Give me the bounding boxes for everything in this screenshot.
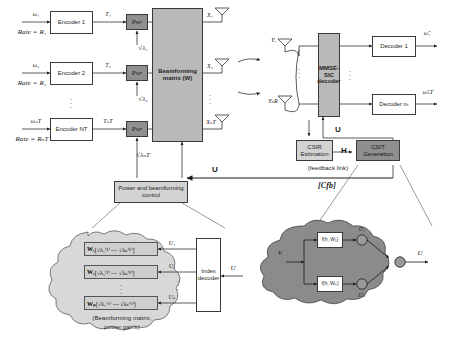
index-decoder-line1: Index: [201, 268, 216, 275]
channel-matrix-label: H: [341, 147, 347, 156]
stream-symbol-1: T₁: [105, 11, 111, 18]
beamforming-label-line2: matrix (W): [163, 75, 192, 82]
encoder-1-block[interactable]: Encoder 1: [50, 11, 93, 34]
codebook-gains-2: [√λ₁⁽²⁾ ⋯ √λₙ⁽²⁾]: [95, 269, 135, 276]
index-decoder-input-label: U: [230, 265, 235, 273]
csit-label-line1: CSIT: [371, 144, 385, 151]
stream-symbol-nt: TₙT: [103, 118, 112, 125]
rx-antenna-ellipsis: ...: [298, 66, 300, 78]
selection-function-1: f(h, W₁): [317, 232, 343, 248]
index-decoder-block[interactable]: Index decoder: [196, 238, 221, 312]
selection-function-p: f(h, Wₚ): [317, 276, 343, 292]
power-block-2[interactable]: Pwr: [126, 65, 148, 81]
codebook-caption-line1: (Beamforming matrix,: [92, 315, 151, 322]
encoder-2-block[interactable]: Encoder 2: [50, 62, 93, 85]
antenna-output-nt: XₙT: [206, 119, 216, 126]
power-beamforming-control-block[interactable]: Power and beamforming control: [114, 181, 188, 203]
decoder-1-block[interactable]: Decoder 1: [372, 36, 416, 57]
codebook-matrix-2: W₂: [87, 269, 95, 275]
codebook-entry-1: W₁ [√λ₁⁽¹⁾ ⋯ √λₙ⁽¹⁾]: [84, 242, 158, 256]
feedback-capacity-label: [Cfb]: [318, 182, 336, 191]
decoder-output-1: ω̂₁: [424, 30, 431, 37]
rx-antenna-label-nr: YₙR: [268, 98, 278, 105]
csit-label-line2: Generation: [363, 151, 393, 158]
csir-label-line2: Estimation: [300, 151, 328, 158]
decoder-feedback-u-label: U: [335, 126, 341, 135]
input-symbol-nt: ωₙT: [31, 118, 41, 125]
beamforming-label-line1: Beamforming: [158, 68, 197, 75]
antenna-output-2: X₂: [207, 63, 213, 70]
input-symbol-2: ω₂: [33, 62, 40, 69]
mmse-label-line1: MMSE-: [319, 65, 339, 72]
codebook-index-ellipsis: ...: [177, 278, 179, 290]
selection-input-label: V: [278, 250, 282, 258]
control-label-line2: control: [142, 192, 160, 199]
codebook-caption-line2: power gains): [104, 324, 140, 331]
codebook-entry-2: W₂ [√λ₁⁽²⁾ ⋯ √λₙ⁽²⁾]: [84, 265, 158, 279]
decoder-output-nt: ω̂ₙT: [423, 89, 433, 96]
rate-label-2: Rate = R₂: [18, 80, 47, 88]
control-label-line1: Power and beamforming: [118, 185, 183, 192]
rx-antenna-label-1: Y₁: [271, 37, 277, 44]
mmse-label-line3: decoder: [317, 78, 340, 85]
tx-antenna-ellipsis: ...: [209, 92, 211, 104]
gain-label-2: √λ₂: [138, 96, 148, 104]
feedback-link-label: (feedback link): [308, 165, 349, 172]
rate-label-1: Rate = R₁: [18, 29, 47, 37]
codebook-index-label-1: U₁: [169, 240, 176, 247]
selection-node-label-1: U₁: [359, 226, 366, 233]
mmse-label-line2: SIC: [324, 72, 334, 79]
codebook-gains-p: [√λ₁⁽ᵖ⁾ ⋯ √λₙ⁽ᵖ⁾]: [96, 300, 136, 307]
beamforming-matrix-block[interactable]: Beamforming matrix (W): [152, 8, 203, 142]
encoder-ellipsis: ...: [70, 96, 72, 108]
csir-label-line1: CSIR: [307, 144, 321, 151]
control-input-u-label: U: [212, 166, 218, 175]
decoder-nt-block[interactable]: Decoder nₜ: [372, 94, 416, 115]
power-block-nt[interactable]: Pwr: [126, 121, 148, 137]
codebook-index-label-p: Uₚ: [169, 294, 176, 301]
codebook-matrix-p: Wₚ: [87, 300, 96, 307]
csit-generation-block[interactable]: CSIT Generation: [356, 140, 400, 161]
gain-label-1: √λ₁: [138, 45, 148, 53]
codebook-matrix-1: W₁: [87, 246, 95, 252]
selection-output-label: U: [417, 250, 422, 258]
codebook-ellipsis: ...: [120, 282, 122, 294]
encoder-nt-block[interactable]: Encoder NT: [50, 118, 93, 141]
diagram-canvas: Encoder 1 Encoder 2 Encoder NT Pwr Pwr P…: [0, 0, 453, 360]
selection-node-label-p: Uₚ: [359, 292, 366, 299]
rate-label-nt: Rate = RₙT: [15, 136, 48, 144]
input-symbol-1: ω₁: [33, 11, 40, 18]
stream-symbol-2: T₂: [105, 62, 111, 69]
power-block-1[interactable]: Pwr: [126, 14, 148, 30]
antenna-output-1: X₁: [207, 12, 213, 19]
codebook-gains-1: [√λ₁⁽¹⁾ ⋯ √λₙ⁽¹⁾]: [95, 246, 135, 253]
codebook-entry-p: Wₚ [√λ₁⁽ᵖ⁾ ⋯ √λₙ⁽ᵖ⁾]: [84, 296, 158, 310]
csir-estimation-block[interactable]: CSIR Estimation: [296, 140, 333, 161]
gain-label-nt: √λₙT: [136, 152, 150, 160]
rx-decoder-ellipsis: ...: [349, 68, 351, 80]
index-decoder-line2: decoder: [198, 275, 220, 282]
codebook-index-label-2: U₂: [169, 263, 176, 270]
mmse-sic-decoder-block[interactable]: MMSE- SIC decoder: [318, 33, 340, 117]
